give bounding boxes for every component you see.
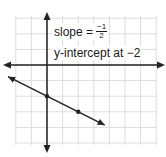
x-axis-left-arrow-icon [3, 62, 11, 69]
slope-denominator: 2 [99, 32, 103, 40]
y-axis-down-arrow-icon [44, 145, 51, 153]
y-axis [44, 12, 51, 153]
slope-fraction: −1 2 [96, 23, 107, 40]
slope-label: slope = −1 2 [53, 23, 108, 40]
y-intercept-label: y-intercept at −2 [53, 46, 141, 60]
y-axis-up-arrow-icon [44, 12, 51, 20]
linear-function-line [8, 77, 105, 125]
plotted-point [45, 94, 49, 98]
slope-prefix: slope = [54, 25, 93, 39]
x-axis-right-arrow-icon [157, 62, 165, 69]
plotted-point [76, 110, 80, 114]
